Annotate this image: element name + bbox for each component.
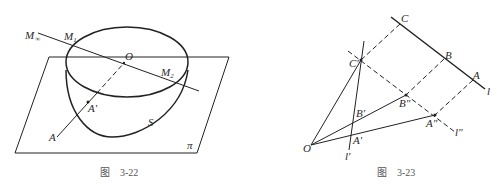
caption-3-22: 图3-22 <box>100 167 138 178</box>
label-m2: M2 <box>160 66 174 80</box>
label-a-prime: A' <box>87 102 98 114</box>
diagram-canvas: M∞ M1 O M2 A' S A π 图3-22 C B A l C' B" … <box>0 0 499 185</box>
line-l-double-prime <box>348 51 455 132</box>
label-l-prime: l' <box>345 150 351 162</box>
label-a-prime: A' <box>352 134 363 146</box>
figure-3-22: M∞ M1 O M2 A' S A π 图3-22 <box>15 27 229 178</box>
label-b-prime: B' <box>356 107 366 119</box>
label-l: l <box>487 85 490 97</box>
projector-c <box>361 24 400 60</box>
label-c-prime: C' <box>349 57 359 69</box>
label-s: S <box>148 116 154 128</box>
point-c-prime <box>360 59 363 62</box>
label-o: O <box>125 50 133 62</box>
projector-a <box>435 80 473 115</box>
label-b-double-prime: B" <box>399 97 411 109</box>
label-c: C <box>401 12 409 24</box>
label-b: B <box>445 49 452 61</box>
projector-b <box>406 59 444 95</box>
figure-3-23: C B A l C' B" A" l" B' A' O l' 图3-23 <box>303 12 490 178</box>
line-l <box>391 17 485 89</box>
label-a: A <box>48 131 56 143</box>
label-pi: π <box>187 139 193 151</box>
point-o <box>123 62 125 64</box>
ray-o-a-double-prime <box>311 115 435 145</box>
label-m-infinity: M∞ <box>24 29 40 43</box>
label-l-double-prime: l" <box>455 126 463 138</box>
caption-3-23: 图3-23 <box>377 167 415 178</box>
label-o: O <box>303 142 311 154</box>
label-m1: M1 <box>63 30 77 44</box>
label-a-double-prime: A" <box>425 117 438 129</box>
label-a: A <box>472 69 480 81</box>
